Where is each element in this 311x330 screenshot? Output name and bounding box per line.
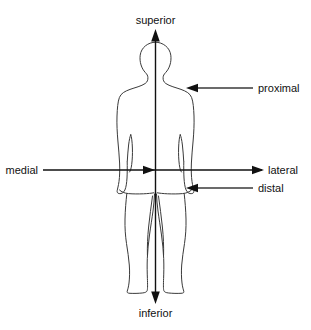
left-arm-inner-line	[127, 135, 130, 161]
vertical-axis-group	[151, 29, 160, 304]
label-superior: superior	[136, 14, 176, 26]
anatomical-directions-diagram: superior inferior medial lateral proxima…	[0, 0, 311, 330]
horizontal-axis-group	[43, 166, 264, 174]
inferior-arrowhead-icon	[151, 292, 160, 305]
right-arm-inner-line	[180, 135, 183, 161]
proximal-callout-group	[186, 84, 253, 92]
left-leg-outer	[125, 194, 155, 294]
medial-center-arrowhead-icon	[143, 166, 155, 174]
proximal-arrowhead-icon	[186, 84, 198, 92]
body-silhouette-path-right	[156, 42, 195, 193]
diagram-canvas: superior inferior medial lateral proxima…	[0, 0, 311, 330]
label-proximal: proximal	[258, 82, 300, 94]
left-hand-outline	[130, 135, 133, 173]
right-leg-outer	[157, 194, 187, 294]
distal-arrowhead-icon	[186, 184, 198, 192]
label-medial: medial	[6, 164, 38, 176]
right-hand-outline	[179, 135, 182, 173]
lateral-arrowhead-icon	[252, 166, 264, 174]
label-lateral: lateral	[268, 164, 298, 176]
superior-arrowhead-icon	[151, 29, 160, 42]
label-distal: distal	[258, 182, 284, 194]
label-inferior: inferior	[139, 307, 173, 319]
distal-callout-group	[186, 184, 253, 192]
